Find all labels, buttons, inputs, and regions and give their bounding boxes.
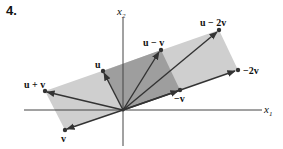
point-minus-v [178,88,182,92]
label-u-plus-v: u + v [24,79,45,90]
label-u-minus-v: u − v [143,37,164,48]
x-axis-label: x1 [263,103,272,118]
point-v [63,128,67,132]
label-minus-v: −v [174,93,185,104]
label-u-minus-2v: u − 2v [200,17,226,28]
label-u: u [95,59,101,70]
origin [122,109,125,112]
point-u-minus-2v [217,28,221,32]
label-minus-2v: −2v [243,65,259,76]
vector-diagram: x1 x2 u u − v u − 2v −2v −v v u + v [0,0,283,149]
y-axis-label: x2 [116,5,126,20]
point-u-minus-v [159,48,163,52]
label-v: v [61,133,66,144]
point-minus-2v [236,68,240,72]
point-u [101,69,105,73]
